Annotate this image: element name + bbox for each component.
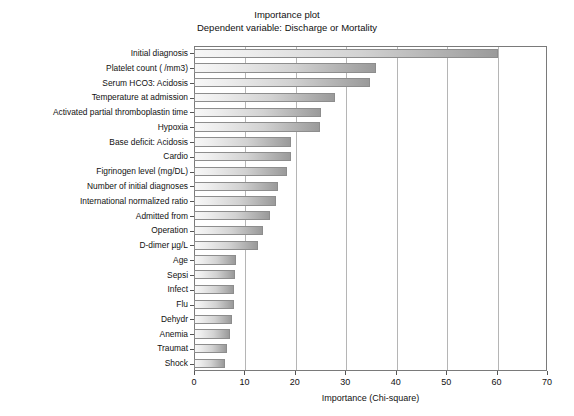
y-axis-label: Age bbox=[0, 253, 188, 268]
y-axis-label: Sepsi bbox=[0, 268, 188, 283]
x-axis-tick bbox=[295, 371, 296, 375]
bar[interactable] bbox=[194, 329, 230, 338]
y-axis-label: Initial diagnosis bbox=[0, 46, 188, 61]
bar[interactable] bbox=[194, 241, 258, 250]
bar-row[interactable] bbox=[194, 61, 547, 76]
y-axis-label: Figrinogen level (mg/DL) bbox=[0, 164, 188, 179]
y-axis-label: Operation bbox=[0, 223, 188, 238]
y-axis-label: Dehydr bbox=[0, 312, 188, 327]
bar-row[interactable] bbox=[194, 268, 547, 283]
bar[interactable] bbox=[194, 167, 287, 176]
bar[interactable] bbox=[194, 137, 291, 146]
bar-row[interactable] bbox=[194, 90, 547, 105]
y-axis-label: Anemia bbox=[0, 327, 188, 342]
bar-row[interactable] bbox=[194, 179, 547, 194]
bar-row[interactable] bbox=[194, 135, 547, 150]
bar[interactable] bbox=[194, 63, 376, 72]
y-axis-label: Number of initial diagnoses bbox=[0, 179, 188, 194]
x-axis-tick bbox=[194, 371, 195, 375]
bar[interactable] bbox=[194, 226, 263, 235]
y-axis-category-labels: Initial diagnosisPlatelet count ( /mm3)S… bbox=[0, 46, 188, 371]
title-block: Importance plot Dependent variable: Disc… bbox=[0, 8, 574, 34]
x-axis-tick-label: 30 bbox=[325, 377, 365, 387]
y-axis-label: Activated partial thromboplastin time bbox=[0, 105, 188, 120]
chart-subtitle: Dependent variable: Discharge or Mortali… bbox=[0, 21, 574, 34]
bar[interactable] bbox=[194, 93, 335, 102]
bar-row[interactable] bbox=[194, 282, 547, 297]
y-axis-label: Temperature at admission bbox=[0, 90, 188, 105]
bar-row[interactable] bbox=[194, 194, 547, 209]
x-axis-tick bbox=[497, 371, 498, 375]
bar[interactable] bbox=[194, 255, 236, 264]
bar-row[interactable] bbox=[194, 46, 547, 61]
x-axis-tick bbox=[446, 371, 447, 375]
x-axis-tick-label: 40 bbox=[376, 377, 416, 387]
importance-plot-figure: Importance plot Dependent variable: Disc… bbox=[0, 0, 574, 416]
bar-row[interactable] bbox=[194, 253, 547, 268]
bar[interactable] bbox=[194, 78, 370, 87]
bar-row[interactable] bbox=[194, 312, 547, 327]
y-axis-label: D-dimer µg/L bbox=[0, 238, 188, 253]
bar[interactable] bbox=[194, 344, 227, 353]
y-axis-label: Hypoxia bbox=[0, 120, 188, 135]
x-axis-tick bbox=[396, 371, 397, 375]
x-axis-title: Importance (Chi-square) bbox=[194, 393, 547, 403]
bar[interactable] bbox=[194, 122, 320, 131]
x-axis-tick bbox=[345, 371, 346, 375]
bar-row[interactable] bbox=[194, 76, 547, 91]
x-axis-tick-label: 20 bbox=[275, 377, 315, 387]
x-axis-tick-label: 50 bbox=[426, 377, 466, 387]
bar[interactable] bbox=[194, 182, 278, 191]
bar[interactable] bbox=[194, 196, 276, 205]
bar-row[interactable] bbox=[194, 209, 547, 224]
y-axis-label: Traumat bbox=[0, 341, 188, 356]
y-axis-label: Base deficit: Acidosis bbox=[0, 135, 188, 150]
bar-row[interactable] bbox=[194, 238, 547, 253]
x-axis-tick-label: 0 bbox=[174, 377, 214, 387]
y-axis-label: Platelet count ( /mm3) bbox=[0, 61, 188, 76]
y-axis-label: Shock bbox=[0, 356, 188, 371]
y-axis-label: International normalized ratio bbox=[0, 194, 188, 209]
chart-title: Importance plot bbox=[0, 8, 574, 21]
bar[interactable] bbox=[194, 49, 498, 58]
bar-row[interactable] bbox=[194, 327, 547, 342]
bar-row[interactable] bbox=[194, 120, 547, 135]
y-axis-label: Infect bbox=[0, 282, 188, 297]
bar-row[interactable] bbox=[194, 164, 547, 179]
bar-row[interactable] bbox=[194, 105, 547, 120]
y-axis-label: Cardio bbox=[0, 149, 188, 164]
bar-row[interactable] bbox=[194, 223, 547, 238]
y-axis-label: Admitted from bbox=[0, 209, 188, 224]
x-axis-tick-label: 10 bbox=[224, 377, 264, 387]
bar-row[interactable] bbox=[194, 341, 547, 356]
bar-row[interactable] bbox=[194, 297, 547, 312]
bar[interactable] bbox=[194, 285, 234, 294]
bar-row[interactable] bbox=[194, 149, 547, 164]
bar[interactable] bbox=[194, 108, 321, 117]
y-axis-label: Flu bbox=[0, 297, 188, 312]
bar[interactable] bbox=[194, 315, 232, 324]
y-axis-label: Serum HCO3: Acidosis bbox=[0, 76, 188, 91]
x-axis-tick-label: 60 bbox=[477, 377, 517, 387]
bar-series bbox=[194, 46, 547, 371]
bar[interactable] bbox=[194, 152, 291, 161]
x-axis-tick-label: 70 bbox=[527, 377, 567, 387]
x-axis-tick bbox=[244, 371, 245, 375]
bar[interactable] bbox=[194, 300, 234, 309]
bar-row[interactable] bbox=[194, 356, 547, 371]
bar[interactable] bbox=[194, 270, 235, 279]
x-axis-tick bbox=[547, 371, 548, 375]
bar[interactable] bbox=[194, 211, 270, 220]
bar[interactable] bbox=[194, 359, 225, 368]
